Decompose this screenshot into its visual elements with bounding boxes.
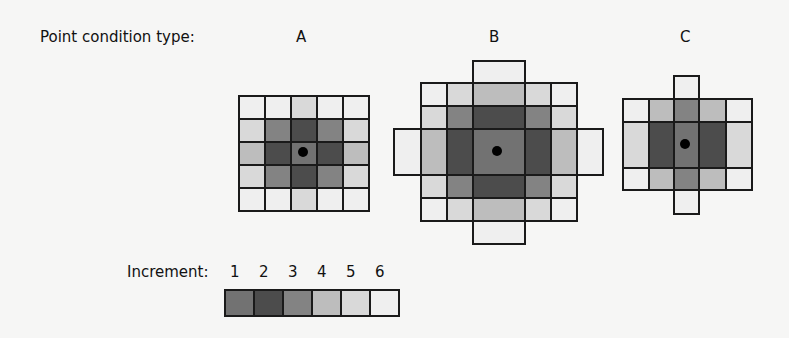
grid-cell-increment-4 (472, 197, 526, 222)
grid-cell-increment-6 (550, 197, 578, 222)
grid-cell-increment-6 (316, 187, 344, 212)
grid-cell-increment-6 (576, 128, 604, 176)
legend-num-5: 5 (346, 263, 356, 281)
point-marker-icon (680, 139, 690, 149)
grid-cell-increment-6 (420, 82, 448, 107)
grid-cell-increment-6 (420, 197, 448, 222)
type-c-label: C (680, 28, 690, 46)
grid-cell-increment-2 (446, 128, 474, 176)
grid-cell-increment-4 (238, 141, 266, 166)
grid-cell-increment-4 (648, 167, 675, 191)
legend-num-3: 3 (288, 263, 298, 281)
grid-cell-increment-3 (446, 174, 474, 199)
grid-cell-increment-6 (622, 167, 650, 191)
point-marker-icon (298, 147, 308, 157)
legend-num-4: 4 (317, 263, 327, 281)
grid-cell-increment-3 (264, 118, 292, 143)
grid-cell-increment-5 (290, 187, 318, 212)
grid-cell-increment-3 (316, 164, 344, 189)
grid-cell-increment-6 (472, 220, 526, 245)
grid-cell-increment-5 (342, 118, 370, 143)
grid-cell-increment-6 (342, 187, 370, 212)
grid-cell-increment-3 (673, 167, 700, 191)
grid-cell-increment-5 (622, 121, 650, 169)
legend-num-1: 1 (230, 263, 240, 281)
grid-cell-increment-4 (472, 82, 526, 107)
grid-cell-increment-2 (316, 141, 344, 166)
grid-cell-increment-5 (550, 105, 578, 130)
grid-cell-increment-5 (342, 164, 370, 189)
legend-num-6: 6 (375, 263, 385, 281)
legend-swatch-6 (369, 289, 400, 317)
grid-cell-increment-3 (673, 98, 700, 123)
grid-cell-increment-2 (290, 118, 318, 143)
grid-cell-increment-4 (550, 128, 578, 176)
type-a-label: A (296, 28, 306, 46)
grid-cell-increment-2 (472, 174, 526, 199)
legend-title: Increment: (127, 263, 209, 281)
grid-cell-increment-5 (420, 174, 448, 199)
grid-cell-increment-6 (264, 95, 292, 120)
grid-cell-increment-6 (725, 98, 753, 123)
grid-cell-increment-4 (698, 167, 727, 191)
grid-cell-increment-6 (238, 95, 266, 120)
grid-cell-increment-5 (420, 105, 448, 130)
grid-cell-increment-2 (290, 164, 318, 189)
grid-cell-increment-6 (238, 187, 266, 212)
grid-cell-increment-3 (446, 105, 474, 130)
grid-cell-increment-3 (524, 174, 552, 199)
grid-cell-increment-5 (524, 197, 552, 222)
grid-cell-increment-5 (290, 95, 318, 120)
grid-cell-increment-6 (673, 75, 700, 100)
title-label: Point condition type: (40, 28, 195, 46)
legend-swatch-5 (340, 289, 371, 317)
type-b-label: B (489, 28, 499, 46)
grid-cell-increment-2 (472, 105, 526, 130)
grid-cell-increment-3 (264, 164, 292, 189)
grid-cell-increment-6 (342, 95, 370, 120)
grid-cell-increment-4 (698, 98, 727, 123)
legend-swatch-4 (311, 289, 342, 317)
legend-swatch-1 (224, 289, 255, 317)
grid-cell-increment-6 (264, 187, 292, 212)
grid-cell-increment-6 (725, 167, 753, 191)
grid-cell-increment-4 (420, 128, 448, 176)
grid-cell-increment-6 (550, 82, 578, 107)
legend-num-2: 2 (259, 263, 269, 281)
grid-cell-increment-5 (446, 82, 474, 107)
grid-cell-increment-4 (648, 98, 675, 123)
legend-swatch-2 (253, 289, 284, 317)
grid-cell-increment-2 (698, 121, 727, 169)
grid-cell-increment-5 (725, 121, 753, 169)
grid-cell-increment-6 (673, 189, 700, 215)
grid-cell-increment-3 (524, 105, 552, 130)
grid-cell-increment-5 (238, 118, 266, 143)
grid-cell-increment-5 (524, 82, 552, 107)
grid-cell-increment-6 (622, 98, 650, 123)
grid-cell-increment-2 (264, 141, 292, 166)
grid-cell-increment-2 (524, 128, 552, 176)
grid-cell-increment-5 (550, 174, 578, 199)
point-marker-icon (492, 146, 502, 156)
grid-cell-increment-5 (446, 197, 474, 222)
grid-cell-increment-2 (648, 121, 675, 169)
grid-cell-increment-5 (238, 164, 266, 189)
grid-cell-increment-6 (316, 95, 344, 120)
grid-cell-increment-6 (393, 128, 422, 176)
grid-cell-increment-3 (316, 118, 344, 143)
legend-swatch-3 (282, 289, 313, 317)
grid-cell-increment-4 (342, 141, 370, 166)
